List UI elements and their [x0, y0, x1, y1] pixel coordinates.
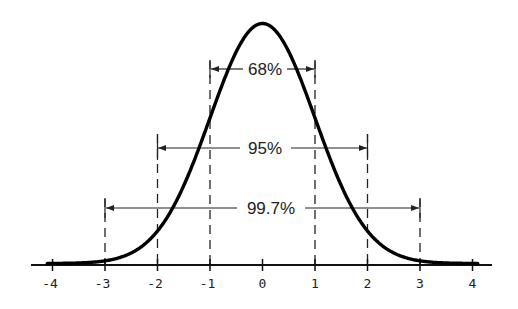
reference-lines [105, 60, 420, 265]
tick-label: -3 [95, 276, 111, 291]
label-99-7-percent: 99.7% [247, 199, 295, 218]
tick-label: 2 [364, 276, 372, 291]
x-axis-tick-labels: -4 -3 -2 -1 0 1 2 3 4 [42, 276, 476, 291]
normal-distribution-chart: -4 -3 -2 -1 0 1 2 3 4 68% 95% [0, 0, 518, 309]
tick-label: -1 [200, 276, 216, 291]
tick-label: -4 [42, 276, 58, 291]
label-95-percent: 95% [248, 139, 282, 158]
tick-label: -2 [147, 276, 163, 291]
tick-label: 0 [259, 276, 267, 291]
tick-label: 4 [469, 276, 477, 291]
label-68-percent: 68% [248, 60, 282, 79]
tick-label: 3 [416, 276, 424, 291]
tick-label: 1 [311, 276, 319, 291]
x-axis: -4 -3 -2 -1 0 1 2 3 4 [31, 259, 492, 291]
